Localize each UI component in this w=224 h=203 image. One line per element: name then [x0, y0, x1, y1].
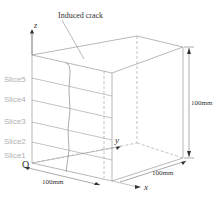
depth-dimension: 100mm [120, 161, 186, 182]
x-axis-arrow-icon [135, 185, 141, 189]
slice-label-4: Slice4 [4, 95, 26, 104]
y-axis-line [32, 147, 118, 163]
width-dimension-label: 100mm [42, 178, 64, 186]
slice-lines [32, 78, 112, 160]
y-axis-label: y [114, 135, 119, 145]
crack-annotation: Induced crack [58, 11, 103, 20]
slice-label-5: Slice5 [4, 75, 26, 84]
x-axis-label: x [143, 182, 148, 192]
hidden-edges [32, 36, 183, 178]
slice-label-1: Slice1 [4, 151, 26, 160]
height-dimension-label: 100mm [191, 99, 213, 107]
x-axis-line [112, 181, 138, 187]
cube-diagram: Induced crack z y x O Slice5 Slice4 Slic… [0, 0, 224, 203]
depth-dimension-label: 100mm [152, 169, 174, 177]
height-dimension: 100mm [184, 47, 213, 158]
slice-label-3: Slice3 [4, 117, 26, 126]
crack-leader-line [62, 20, 84, 59]
slice-label-2: Slice2 [4, 137, 26, 146]
z-axis-label: z [33, 21, 38, 30]
crack-line [66, 63, 70, 172]
